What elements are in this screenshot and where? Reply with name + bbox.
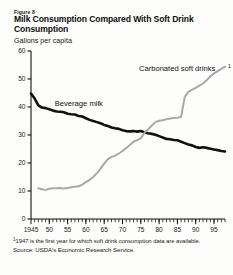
figure-container: Figure 8 Milk Consumption Compared With … xyxy=(0,0,233,275)
chart-series-lines xyxy=(31,67,225,190)
x-tick-label: 55 xyxy=(64,226,72,233)
x-axis-tick-labels: 194550556065707580859095 xyxy=(24,226,218,233)
series-line xyxy=(38,67,225,190)
chart-axes: 0102030405060 194550556065707580859095 xyxy=(18,47,225,233)
x-tick-label: 80 xyxy=(155,226,163,233)
y-axis-tick-labels: 0102030405060 xyxy=(18,47,26,222)
x-axis-major-ticks xyxy=(31,219,214,224)
x-tick-label: 70 xyxy=(119,226,127,233)
footnote-body: 1947 is the first year for which soft dr… xyxy=(16,238,201,244)
x-tick-label: 50 xyxy=(46,226,54,233)
series-inline-labels: Beverage milkCarbonated soft drinks1 xyxy=(55,63,231,108)
x-tick-label: 75 xyxy=(137,226,145,233)
source-text: Source: USDA's Economic Research Service… xyxy=(13,246,223,253)
series-inline-label: Carbonated soft drinks xyxy=(139,64,216,73)
x-tick-label: 90 xyxy=(192,226,200,233)
y-tick-label: 10 xyxy=(18,187,26,194)
y-tick-label: 30 xyxy=(18,131,26,138)
series-label-marker: 1 xyxy=(228,63,231,69)
x-tick-label: 85 xyxy=(174,226,182,233)
y-tick-label: 50 xyxy=(18,75,26,82)
footnote-text: 11947 is the first year for which soft d… xyxy=(13,237,223,245)
line-chart-plot: 0102030405060 194550556065707580859095 B… xyxy=(0,0,233,275)
y-tick-label: 60 xyxy=(18,47,26,54)
figure-notes: 11947 is the first year for which soft d… xyxy=(13,237,223,253)
y-tick-label: 40 xyxy=(18,103,26,110)
x-tick-label: 95 xyxy=(210,226,218,233)
x-tick-label: 60 xyxy=(82,226,90,233)
x-tick-label: 1945 xyxy=(24,226,39,233)
y-tick-label: 0 xyxy=(22,215,26,222)
series-inline-label: Beverage milk xyxy=(55,99,103,108)
y-tick-label: 20 xyxy=(18,159,26,166)
x-tick-label: 65 xyxy=(101,226,109,233)
